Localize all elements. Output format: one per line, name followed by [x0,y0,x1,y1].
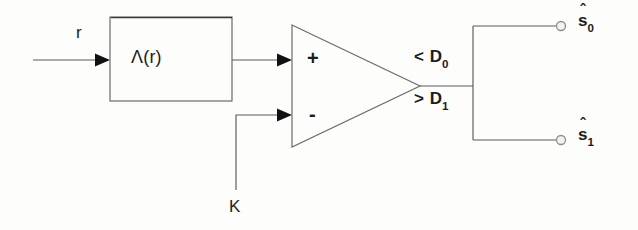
block-diagram-figure: r Λ(r) + - K < D0 > D1 ˆs0 ˆs1 [0,0,638,230]
arrowhead-comparator-minus [277,109,292,122]
likelihood-block-label: Λ(r) [131,48,162,66]
comparator-shape [292,25,420,147]
decision-upper-symbol: D [430,47,442,66]
wire-block-to-comparator-plus [232,54,292,67]
wire-threshold-k [236,109,292,191]
output-terminal-upper-icon [557,22,566,31]
comparator-plus-label: + [307,48,319,68]
decision-upper-operator: < [414,47,425,66]
likelihood-block-shape [110,17,232,101]
decision-lower-subscript: 1 [442,100,448,112]
output-lower-subscript: 1 [587,136,593,148]
arrowhead-into-block [95,54,110,67]
decision-upper-subscript: 0 [442,58,448,70]
comparator-minus-label: - [309,104,316,124]
wire-input-r [33,54,110,67]
decision-upper-label: < D0 [414,48,448,69]
output-upper-subscript: 0 [587,22,593,34]
decision-lower-operator: > [414,89,425,108]
output-lower-label: ˆs1 [578,126,594,147]
arrowhead-comparator-plus [277,54,292,67]
input-signal-label: r [76,24,82,41]
wire-decision-bus [420,26,556,140]
decision-lower-symbol: D [430,89,442,108]
output-upper-label: ˆs0 [578,12,594,33]
threshold-label: K [229,198,240,215]
decision-lower-label: > D1 [414,90,448,111]
diagram-canvas [0,0,638,230]
output-terminal-lower-icon [557,136,566,145]
